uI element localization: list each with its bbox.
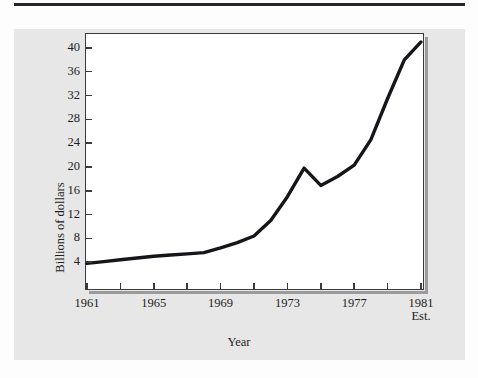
x-tick-label: 1969 — [195, 297, 247, 310]
scanned-page: Billions of dollars 481216202428323640 1… — [0, 0, 478, 378]
x-axis-title: Year — [0, 335, 478, 350]
x-tick-label: 1965 — [128, 297, 180, 310]
y-tick-mark — [86, 47, 92, 49]
page-top-rule — [14, 3, 465, 6]
plot-frame-shadow-bottom — [89, 291, 428, 294]
x-tick-sublabel-est: Est. — [395, 310, 447, 323]
x-tick-label: 1961 — [61, 297, 113, 310]
y-tick-mark — [86, 119, 92, 121]
x-tick-mark — [420, 283, 422, 290]
y-tick-label: 32 — [52, 89, 80, 101]
x-tick-mark — [120, 283, 122, 290]
y-tick-label: 36 — [52, 65, 80, 77]
y-tick-label: 4 — [52, 255, 80, 267]
x-tick-mark — [253, 283, 255, 290]
y-tick-mark — [86, 238, 92, 240]
x-tick-mark — [287, 283, 289, 290]
y-tick-label: 20 — [52, 160, 80, 172]
y-tick-mark — [86, 142, 92, 144]
y-tick-mark — [86, 261, 92, 263]
x-tick-mark — [186, 283, 188, 290]
x-tick-label: 1973 — [261, 297, 313, 310]
y-tick-label: 16 — [52, 184, 80, 196]
y-tick-mark — [86, 190, 92, 192]
x-tick-mark — [320, 283, 322, 290]
x-tick-label: 1981Est. — [395, 297, 447, 323]
y-axis-title: Billions of dollars — [53, 158, 68, 298]
y-tick-label: 28 — [52, 112, 80, 124]
y-tick-label: 8 — [52, 231, 80, 243]
y-tick-mark — [86, 214, 92, 216]
y-tick-label: 24 — [52, 136, 80, 148]
x-tick-mark — [220, 283, 222, 290]
data-series-line — [87, 42, 421, 263]
y-tick-mark — [86, 95, 92, 97]
x-tick-label: 1977 — [328, 297, 380, 310]
plot-frame-shadow-right — [425, 37, 428, 293]
y-tick-mark — [86, 166, 92, 168]
line-chart-plot — [85, 33, 424, 290]
x-tick-mark — [86, 283, 88, 290]
y-axis-title-wrap: Billions of dollars — [34, 100, 54, 160]
y-tick-label: 40 — [52, 41, 80, 53]
x-tick-mark — [153, 283, 155, 290]
y-tick-mark — [86, 71, 92, 73]
y-tick-label: 12 — [52, 208, 80, 220]
x-tick-mark — [387, 283, 389, 290]
x-tick-mark — [353, 283, 355, 290]
